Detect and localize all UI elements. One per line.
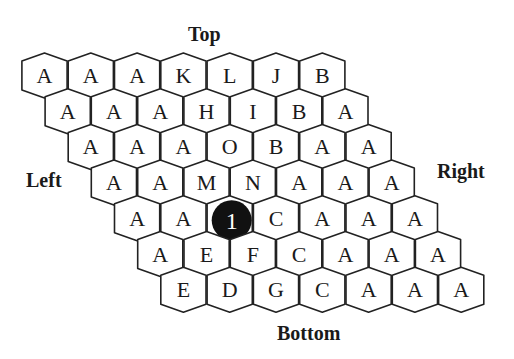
cell-letter: A [361,277,377,302]
hex-cell[interactable]: E [161,267,206,312]
stone-label: 1 [226,208,238,234]
cell-letter: A [430,242,446,267]
hex-cell[interactable]: C [300,267,345,312]
right-label: Right [437,161,485,181]
cell-letter: A [152,99,168,124]
cell-letter: A [60,99,76,124]
cell-letter: A [291,170,307,195]
cell-letter: A [83,134,99,159]
cell-letter: H [199,99,215,124]
cell-letter: A [338,170,354,195]
left-label: Left [26,170,62,190]
cell-letter: A [152,242,168,267]
cell-letter: N [245,170,261,195]
cell-letter: A [361,206,377,231]
cell-letter: O [222,134,238,159]
cell-letter: A [37,63,53,88]
cell-letter: A [152,170,168,195]
cell-letter: C [315,277,330,302]
hex-cell[interactable]: D [207,267,252,312]
cell-letter: A [129,206,145,231]
cell-letter: C [269,206,284,231]
cell-letter: E [200,242,213,267]
cell-letter: B [292,99,307,124]
cell-letter: A [175,134,191,159]
cell-letter: A [314,134,330,159]
bottom-label: Bottom [277,323,340,343]
cell-letter: E [177,277,190,302]
cell-letter: A [453,277,469,302]
cell-letter: A [361,134,377,159]
cell-letter: D [222,277,238,302]
cell-letter: A [384,170,400,195]
cell-letter: A [175,206,191,231]
cell-letter: A [314,206,330,231]
cell-letter: J [272,63,281,88]
cell-letter: C [292,242,307,267]
cell-letter: F [247,242,259,267]
top-label: Top [188,24,221,44]
cell-letter: A [338,242,354,267]
cell-letter: A [83,63,99,88]
cell-letter: L [223,63,236,88]
cell-letter: A [106,99,122,124]
cell-letter: A [129,134,145,159]
cell-letter: A [129,63,145,88]
hex-cell[interactable]: A [346,267,391,312]
cell-letter: I [249,99,256,124]
cell-letter: M [197,170,217,195]
cell-letter: A [407,206,423,231]
cell-letter: K [175,63,191,88]
hex-cell[interactable]: A [439,267,484,312]
cell-letter: G [268,277,284,302]
cell-letter: A [407,277,423,302]
cell-letter: A [338,99,354,124]
cell-letter: A [106,170,122,195]
cell-letter: B [315,63,330,88]
hex-cell[interactable]: A [392,267,437,312]
hex-cell[interactable]: G [253,267,298,312]
cell-letter: B [269,134,284,159]
cell-letter: A [384,242,400,267]
